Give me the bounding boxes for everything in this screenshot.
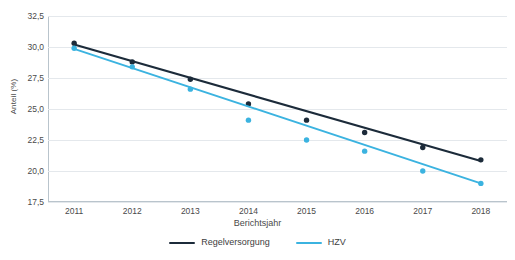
legend-item-hzv: HZV [296, 238, 346, 247]
data-point [246, 117, 251, 122]
x-axis-title: Berichtsjahr [0, 218, 515, 228]
x-tick-label: 2016 [355, 206, 374, 216]
y-tick-label: 20,0 [27, 166, 44, 176]
data-point [188, 86, 193, 91]
trend-line-hzv [74, 49, 481, 184]
data-point [71, 46, 76, 51]
legend-swatch-hzv [296, 242, 322, 244]
data-point [362, 130, 367, 135]
data-point [478, 181, 483, 186]
data-point [130, 64, 135, 69]
y-tick-label: 25,0 [27, 104, 44, 114]
chart-legend: Regelversorgung HZV [0, 238, 515, 247]
data-point [130, 59, 135, 64]
data-point [420, 168, 425, 173]
x-tick-label: 2011 [65, 206, 83, 216]
x-tick-label: 2012 [123, 206, 142, 216]
y-tick-label: 22,5 [27, 135, 44, 145]
y-tick-label: 17,5 [27, 197, 44, 207]
data-point [188, 77, 193, 82]
legend-label-regelversorgung: Regelversorgung [201, 238, 270, 247]
x-tick-label: 2018 [471, 206, 490, 216]
y-tick-label: 30,0 [27, 42, 44, 52]
x-tick-label: 2015 [297, 206, 316, 216]
legend-swatch-regelversorgung [169, 242, 195, 244]
data-point [304, 137, 309, 142]
data-point [71, 41, 76, 46]
x-tick-label: 2017 [413, 206, 432, 216]
line-chart: Anteil (%) 32,530,027,525,022,520,017,5 … [0, 0, 515, 260]
y-tick-label: 27,5 [27, 73, 44, 83]
data-point [478, 157, 483, 162]
x-tick-label: 2014 [239, 206, 258, 216]
legend-label-hzv: HZV [328, 238, 346, 247]
data-point [420, 145, 425, 150]
trend-line-regelversorgung [74, 45, 481, 162]
data-point [362, 148, 367, 153]
x-tick-label: 2013 [181, 206, 200, 216]
series-layer [48, 16, 507, 202]
legend-item-regelversorgung: Regelversorgung [169, 238, 270, 247]
gridline [48, 202, 507, 203]
y-tick-label: 32,5 [27, 11, 44, 21]
data-point [304, 117, 309, 122]
